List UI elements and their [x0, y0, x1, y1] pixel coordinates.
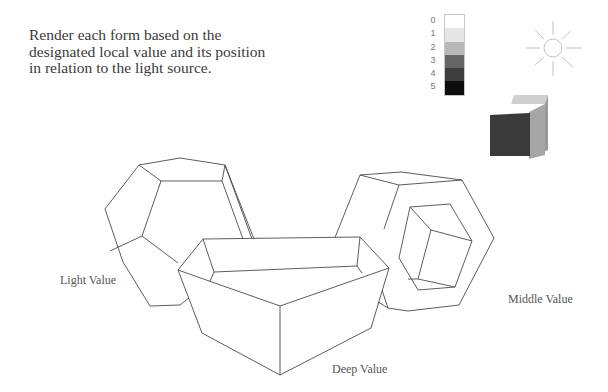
deep-value-label: Deep Value [332, 362, 387, 377]
forms-illustration [0, 0, 608, 392]
light-value-label: Light Value [60, 273, 116, 288]
sun-icon [526, 21, 582, 76]
pentagonal-tray-form [178, 237, 389, 375]
middle-value-label: Middle Value [508, 292, 573, 307]
example-cube [490, 95, 548, 159]
